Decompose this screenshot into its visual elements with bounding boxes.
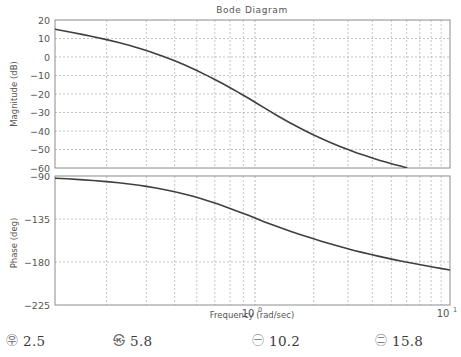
magnitude-subplot xyxy=(55,20,450,168)
magnitude-ytick-m20: −20 xyxy=(30,89,50,100)
magnitude-ytick-10: 10 xyxy=(38,33,50,44)
xtick-decade-1: 10 1 xyxy=(437,306,458,319)
phase-ytick-m90: −90 xyxy=(30,171,50,182)
answer-option-2[interactable]: ㉿ 5.8 xyxy=(113,333,152,349)
magnitude-curve xyxy=(55,29,407,167)
magnitude-ytick-0: 0 xyxy=(44,52,50,63)
magnitude-ytick-m50: −50 xyxy=(30,144,50,155)
answer-value-2: 5.8 xyxy=(130,333,152,349)
xtick-1-exponent: 1 xyxy=(453,306,457,314)
bode-plot-svg: Bode Diagram xyxy=(0,0,461,320)
answer-marker-1: ㉾ xyxy=(6,335,18,347)
magnitude-ytick-m30: −30 xyxy=(30,107,50,118)
answer-marker-4: ㊁ xyxy=(375,335,387,347)
magnitude-axis-label: Magnitude (dB) xyxy=(9,61,19,127)
phase-subplot xyxy=(55,176,450,305)
phase-plot-frame xyxy=(55,176,450,305)
answer-options-row: ㉾ 2.5 ㉿ 5.8 ㊀ 10.2 ㊁ 15.8 xyxy=(0,331,461,357)
magnitude-ytick-m40: −40 xyxy=(30,126,50,137)
answer-option-4[interactable]: ㊁ 15.8 xyxy=(375,333,423,349)
phase-axis-label: Phase (deg) xyxy=(9,218,19,269)
answer-value-1: 2.5 xyxy=(23,333,45,349)
magnitude-horizontal-gridlines xyxy=(55,39,450,150)
phase-vertical-gridlines xyxy=(107,176,442,305)
phase-ytick-labels: −90 −135 −180 −225 xyxy=(24,171,50,311)
phase-horizontal-gridlines xyxy=(55,219,450,262)
chart-title: Bode Diagram xyxy=(216,5,288,15)
xtick-1-base: 10 xyxy=(437,308,450,319)
magnitude-ytick-20: 20 xyxy=(38,15,50,26)
phase-curve xyxy=(55,178,450,270)
phase-ytick-m225: −225 xyxy=(24,300,50,311)
answer-value-3: 10.2 xyxy=(269,333,300,349)
answer-option-3[interactable]: ㊀ 10.2 xyxy=(252,333,300,349)
bode-diagram-figure: Bode Diagram xyxy=(0,0,461,320)
phase-ytick-m135: −135 xyxy=(24,214,50,225)
bode-diagram-question-page: Bode Diagram xyxy=(0,0,461,357)
answer-option-1[interactable]: ㉾ 2.5 xyxy=(6,333,45,349)
answer-value-4: 15.8 xyxy=(392,333,423,349)
magnitude-ytick-labels: 20 10 0 −10 −20 −30 −40 −50 −60 xyxy=(30,15,50,174)
answer-marker-3: ㊀ xyxy=(252,335,264,347)
magnitude-ytick-m10: −10 xyxy=(30,70,50,81)
frequency-axis-label: Frequency (rad/sec) xyxy=(210,310,295,320)
answer-marker-2: ㉿ xyxy=(113,335,125,347)
phase-ytick-m180: −180 xyxy=(24,257,50,268)
